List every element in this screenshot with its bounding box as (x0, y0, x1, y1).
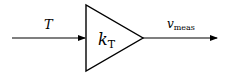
gain-label: kT (98, 30, 116, 51)
output-label: vmeas (167, 17, 195, 32)
output-label-sub: meas (174, 23, 195, 32)
gain-label-sub: T (108, 38, 116, 51)
input-label: T (44, 17, 54, 32)
gain-block-diagram: T kT vmeas (0, 0, 227, 77)
gain-label-base: k (98, 30, 108, 49)
